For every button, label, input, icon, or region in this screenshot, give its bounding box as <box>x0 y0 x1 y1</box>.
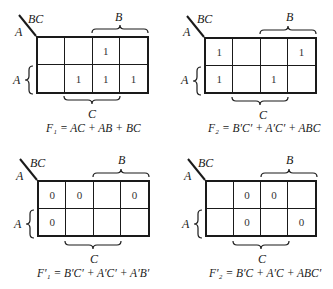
kmap-cell: 0 <box>39 182 66 209</box>
kmap-equation: F′₂ = B′C + A′C + ABC′ <box>209 268 321 280</box>
kmap-cell <box>261 209 288 236</box>
column-var-label: BC <box>197 13 212 25</box>
kmap-cell <box>65 38 92 65</box>
kmap-cell <box>94 209 121 236</box>
kmap-cell: 0 <box>121 182 148 209</box>
kmap-cell <box>120 38 147 65</box>
kmap-cell <box>38 65 65 92</box>
kmap-cell: 0 <box>234 209 261 236</box>
kmap-cell <box>207 209 234 236</box>
kmap-cell: 0 <box>234 182 261 209</box>
brace-a-label: A <box>182 218 189 230</box>
brace-c-label: C <box>90 253 98 265</box>
row-var-label: A <box>16 170 23 182</box>
kmap-f2-complement: BC A B A C 0 0 0 0 F′₂ = B′C + A′C + ABC… <box>169 144 333 289</box>
brace-c-label: C <box>258 253 266 265</box>
column-var-label: BC <box>30 157 45 169</box>
brace-c-label: C <box>259 109 267 121</box>
brace-b-label: B <box>118 154 125 166</box>
kmap-cell <box>38 38 65 65</box>
kmap-cell <box>288 182 315 209</box>
kmap-cell: 0 <box>261 182 288 209</box>
kmap-f1: BC A B A C 1 1 1 1 F₁ = AC + AB + BC <box>0 0 168 145</box>
kmap-grid: 0 0 0 0 <box>37 180 150 237</box>
kmap-cell <box>207 182 234 209</box>
kmap-cell: 1 <box>65 65 92 92</box>
row-var-label: A <box>15 26 22 38</box>
kmap-cell: 1 <box>288 39 315 66</box>
kmap-cell <box>94 182 121 209</box>
kmap-cell <box>121 209 148 236</box>
kmap-equation: F′₁ = B′C′ + A′C′ + A′B′ <box>37 268 149 280</box>
kmap-grid: 0 0 0 0 <box>205 180 317 237</box>
brace-a-label: A <box>13 74 20 86</box>
kmap-f2: BC A B A C 1 1 1 1 F₂ = B′C′ + A′C′ + AB… <box>168 1 333 146</box>
brace-a-label: A <box>14 218 21 230</box>
kmap-cell <box>288 66 315 93</box>
brace-b-label: B <box>115 11 122 23</box>
kmap-cell: 0 <box>66 182 93 209</box>
kmap-cell <box>66 209 93 236</box>
kmap-cell: 0 <box>39 209 66 236</box>
kmap-grid: 1 1 1 1 <box>204 37 317 94</box>
kmap-cell <box>233 66 260 93</box>
kmap-cell: 1 <box>93 65 120 92</box>
row-var-label: A <box>183 26 190 38</box>
kmap-cell: 1 <box>261 66 288 93</box>
kmap-grid: 1 1 1 1 <box>36 36 149 94</box>
kmap-cell: 1 <box>206 66 233 93</box>
column-var-label: BC <box>28 13 43 25</box>
kmap-equation: F₁ = AC + AB + BC <box>46 123 141 135</box>
kmap-cell: 0 <box>288 209 315 236</box>
row-var-label: A <box>184 170 191 182</box>
brace-a-label: A <box>181 74 188 86</box>
kmap-cell <box>233 39 260 66</box>
brace-b-label: B <box>286 154 293 166</box>
brace-c-label: C <box>88 108 96 120</box>
kmap-equation: F₂ = B′C′ + A′C′ + ABC <box>208 123 320 135</box>
brace-b-label: B <box>286 11 293 23</box>
kmap-cell: 1 <box>93 38 120 65</box>
kmap-cell: 1 <box>206 39 233 66</box>
kmap-f1-complement: BC A B A C 0 0 0 0 F′₁ = B′C′ + A′C′ + A… <box>1 144 169 289</box>
kmap-cell: 1 <box>120 65 147 92</box>
column-var-label: BC <box>198 157 213 169</box>
kmap-cell <box>261 39 288 66</box>
